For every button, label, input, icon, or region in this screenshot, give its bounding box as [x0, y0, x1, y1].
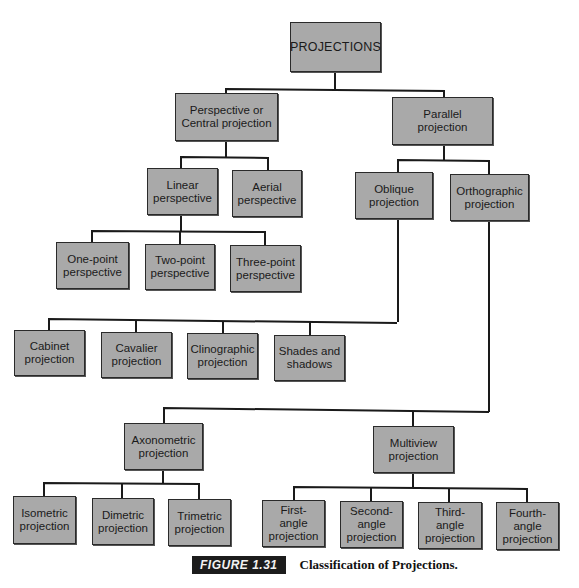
node-third-angle: Third- angle projection [418, 502, 482, 549]
node-dimetric: Dimetric projection [92, 498, 154, 545]
figure-caption: FIGURE 1.31 Classification of Projection… [192, 556, 458, 574]
node-clinographic: Clinographic projection [187, 333, 258, 379]
node-projections: PROJECTIONS [290, 22, 381, 72]
figure-number-label: FIGURE 1.31 [192, 556, 286, 574]
node-multiview: Multiview projection [373, 426, 454, 473]
node-perspective-central: Perspective or Central projection [175, 93, 278, 141]
node-linear-perspective: Linear perspective [147, 168, 218, 215]
node-axonometric: Axonometric projection [124, 423, 203, 470]
node-fourth-angle: Fourth- angle projection [496, 502, 559, 550]
node-orthographic: Orthographic projection [450, 174, 529, 221]
node-isometric: Isometric projection [13, 496, 76, 544]
node-second-angle: Second- angle projection [340, 501, 403, 548]
node-cabinet: Cabinet projection [14, 330, 85, 376]
node-three-point-perspective: Three-point perspective [230, 245, 301, 292]
node-cavalier: Cavalier projection [101, 332, 172, 378]
node-oblique: Oblique projection [355, 172, 433, 219]
node-parallel: Parallel projection [392, 97, 493, 145]
node-first-angle: First- angle projection [262, 500, 325, 547]
node-two-point-perspective: Two-point perspective [145, 244, 215, 290]
projection-classification-diagram: PROJECTIONS Perspective or Central proje… [0, 0, 579, 588]
node-one-point-perspective: One-point perspective [56, 242, 129, 289]
figure-title: Classification of Projections. [300, 557, 458, 573]
node-aerial-perspective: Aerial perspective [232, 170, 302, 217]
node-shades-shadows: Shades and shadows [274, 335, 345, 381]
node-trimetric: Trimetric projection [168, 499, 231, 546]
